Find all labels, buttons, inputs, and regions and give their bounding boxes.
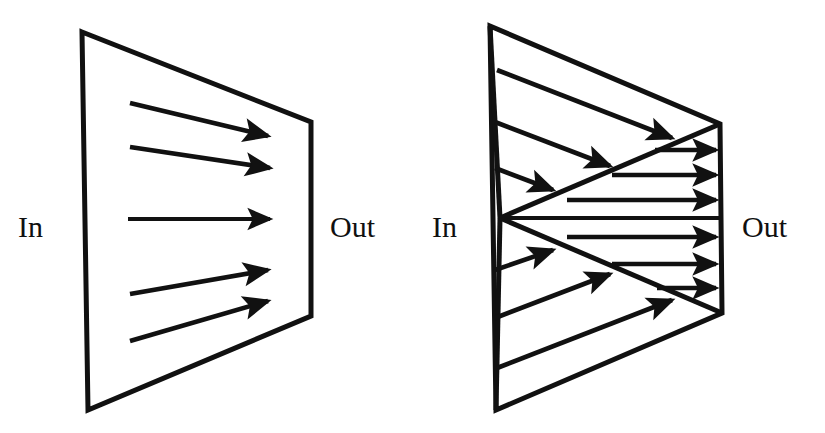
right-in-label: In (432, 210, 457, 243)
left-ray-5 (130, 301, 268, 341)
left-ray-1 (130, 103, 268, 136)
converging-ray-4 (495, 250, 553, 270)
converging-ray-6 (497, 300, 672, 368)
parallel-beam-panel: In Out (18, 32, 376, 410)
left-ray-4 (130, 270, 268, 294)
bowtie-group (490, 26, 722, 410)
diagram-canvas: In Out (0, 0, 825, 433)
focusing-beam-panel: In Out (432, 26, 788, 410)
diagram-svg: In Out (0, 0, 825, 433)
left-ray-group (128, 103, 270, 341)
left-ray-2 (130, 147, 270, 168)
left-in-label: In (18, 210, 43, 243)
converging-ray-5 (495, 274, 610, 318)
right-out-label: Out (742, 210, 788, 243)
converging-ray-2 (495, 122, 610, 166)
converging-ray-3 (495, 168, 553, 190)
left-out-label: Out (330, 210, 376, 243)
converging-ray-1 (497, 70, 672, 138)
